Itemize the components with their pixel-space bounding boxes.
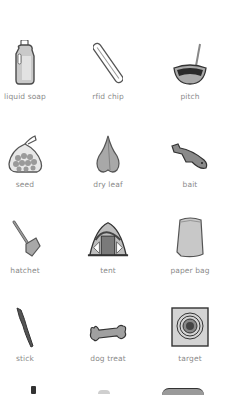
item-liquid-soap[interactable]: liquid soap: [0, 36, 65, 124]
item-label: stick: [16, 354, 34, 363]
item-label: pitch: [180, 92, 199, 101]
item-paper-bag[interactable]: paper bag: [150, 210, 230, 298]
item-dry-leaf[interactable]: dry leaf: [68, 124, 148, 212]
tent-icon: [86, 210, 130, 260]
stick-icon: [3, 298, 47, 348]
item-label: liquid soap: [4, 92, 46, 101]
dry-leaf-icon: [86, 124, 130, 174]
item-label: rfid chip: [92, 92, 124, 101]
rfid-chip-icon: [86, 36, 130, 86]
hatchet-icon: [3, 210, 47, 260]
item-tent[interactable]: tent: [68, 210, 148, 298]
item-dog-treat[interactable]: dog treat: [68, 298, 148, 386]
item-label: hatchet: [10, 266, 39, 275]
item-bait[interactable]: bait: [150, 124, 230, 212]
item-target[interactable]: target: [150, 298, 230, 386]
partial-item-icon: [98, 390, 110, 394]
paper-bag-icon: [168, 210, 212, 260]
item-hatchet[interactable]: hatchet: [0, 210, 65, 298]
seed-bag-icon: [3, 124, 47, 174]
item-label: target: [178, 354, 201, 363]
item-seed[interactable]: seed: [0, 124, 65, 212]
item-label: dog treat: [90, 354, 125, 363]
item-label: seed: [16, 180, 34, 189]
dog-treat-icon: [86, 298, 130, 348]
item-rfid-chip[interactable]: rfid chip: [68, 36, 148, 124]
partial-item-icon: [31, 386, 36, 394]
partial-item-icon: [162, 388, 204, 395]
liquid-soap-icon: [3, 36, 47, 86]
item-label: paper bag: [170, 266, 209, 275]
item-stick[interactable]: stick: [0, 298, 65, 386]
item-label: bait: [183, 180, 198, 189]
item-label: tent: [100, 266, 116, 275]
item-label: dry leaf: [93, 180, 122, 189]
target-icon: [168, 298, 212, 348]
bait-fish-icon: [168, 124, 212, 174]
pitch-icon: [168, 36, 212, 86]
item-pitch[interactable]: pitch: [150, 36, 230, 124]
